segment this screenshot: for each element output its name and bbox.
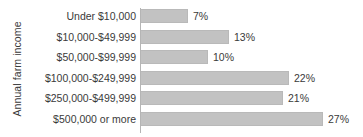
bar-value-label: 22% [294, 70, 315, 86]
bar-row: $10,000-$49,99913% [34, 29, 363, 45]
bar [141, 112, 323, 126]
bar-row: Under $10,0007% [34, 8, 363, 24]
bar-value-label: 27% [328, 111, 349, 127]
y-axis-title: Annual farm income [11, 21, 23, 116]
category-label: $10,000-$49,999 [34, 29, 136, 45]
bar-row: $500,000 or more27% [34, 111, 363, 127]
category-label: $50,000-$99,999 [34, 49, 136, 65]
bar-value-label: 13% [234, 29, 255, 45]
y-axis-title-container: Annual farm income [0, 0, 34, 137]
category-label: $100,000-$249,999 [34, 70, 136, 86]
category-label: $500,000 or more [34, 111, 136, 127]
bar-row: $100,000-$249,99922% [34, 70, 363, 86]
bar-row: $50,000-$99,99910% [34, 49, 363, 65]
category-label: $250,000-$499,999 [34, 90, 136, 106]
bar [141, 30, 229, 44]
bar [141, 91, 283, 105]
bar [141, 50, 208, 64]
bar-value-label: 7% [193, 8, 208, 24]
bar-row: $250,000-$499,99921% [34, 90, 363, 106]
plot-area: Under $10,0007%$10,000-$49,99913%$50,000… [34, 4, 363, 133]
bar-chart: Annual farm income Under $10,0007%$10,00… [0, 0, 363, 137]
bar-value-label: 21% [288, 90, 309, 106]
category-label: Under $10,000 [34, 8, 136, 24]
bar-value-label: 10% [213, 49, 234, 65]
bar [141, 9, 188, 23]
bar [141, 71, 289, 85]
